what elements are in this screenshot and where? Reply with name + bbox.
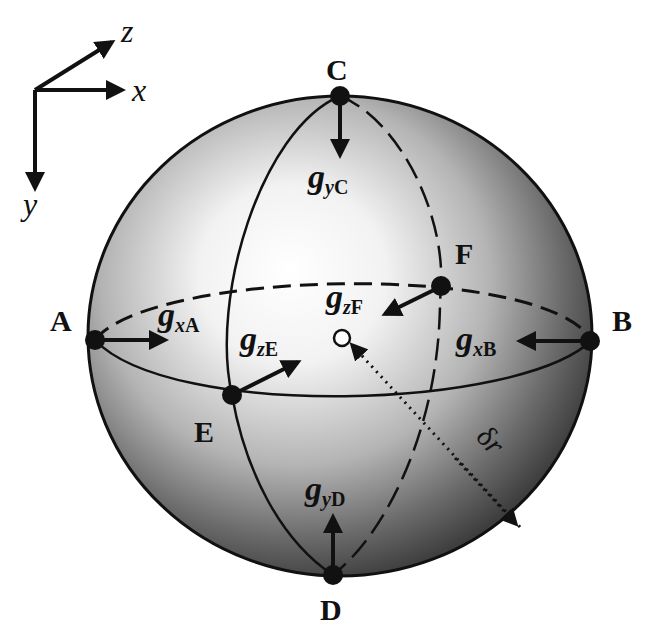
- z-axis-arrow: [35, 42, 112, 90]
- z-axis-label: z: [120, 13, 134, 49]
- label-A: A: [50, 304, 72, 337]
- point-B: [580, 331, 600, 351]
- sphere-diagram: x y z A B C D E F gyC gxA gzE: [0, 0, 654, 635]
- point-C: [330, 86, 350, 106]
- label-D: D: [320, 593, 342, 626]
- point-E: [222, 385, 242, 405]
- y-axis-label: y: [20, 186, 38, 222]
- sphere-center: [334, 330, 350, 346]
- x-axis-label: x: [131, 72, 146, 108]
- coordinate-axes: x y z: [20, 13, 146, 222]
- label-C: C: [326, 53, 348, 86]
- point-F: [431, 276, 451, 296]
- point-A: [85, 330, 105, 350]
- point-D: [323, 565, 343, 585]
- label-B: B: [612, 304, 632, 337]
- label-E: E: [194, 415, 214, 448]
- label-F: F: [455, 237, 473, 270]
